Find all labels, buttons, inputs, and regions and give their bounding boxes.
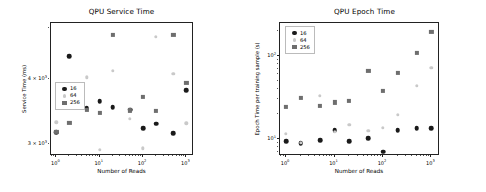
legend-item-16[interactable]: 16: [289, 30, 310, 37]
data-point-series-64: [347, 123, 350, 126]
x-tick-mark: [326, 155, 327, 156]
x-tick-mark: [51, 155, 52, 156]
legend-item-64[interactable]: 64: [59, 92, 80, 99]
y-tick-mark: [277, 142, 278, 143]
x-tick-mark: [377, 155, 378, 156]
y-tick-mark: [48, 27, 49, 28]
data-point-series-64: [284, 132, 287, 135]
legend-swatch-64: [293, 38, 296, 41]
x-tick-mark: [283, 155, 284, 156]
legend-epoch-time[interactable]: 1664256: [285, 26, 315, 54]
data-point-series-256: [171, 33, 175, 37]
y-tick-mark: [277, 68, 278, 69]
data-point-series-256: [366, 69, 370, 73]
legend-label: 256: [70, 99, 80, 106]
data-point-series-256: [67, 121, 71, 125]
figure-canvas: QPU Service Time Service Time (ms) Numbe…: [0, 0, 486, 192]
data-point-series-256: [54, 130, 58, 134]
x-tick-mark: [155, 155, 156, 156]
y-tick-label: 3 × 103: [28, 140, 47, 147]
data-point-series-256: [415, 50, 419, 54]
data-point-series-16: [110, 105, 115, 110]
legend-swatch-256: [62, 101, 66, 105]
y-tick-mark: [277, 73, 278, 74]
y-tick-mark: [48, 78, 49, 79]
data-point-series-64: [55, 121, 58, 124]
x-tick-mark: [308, 155, 309, 156]
data-point-series-16: [366, 136, 371, 141]
y-tick-label: 101: [267, 134, 276, 141]
data-point-series-256: [154, 109, 158, 113]
legend-item-256[interactable]: 256: [59, 99, 80, 106]
legend-marker-icon: [289, 38, 300, 41]
data-point-series-256: [347, 99, 351, 103]
legend-swatch-16: [292, 31, 297, 36]
legend-label: 16: [70, 85, 77, 92]
x-tick-mark: [163, 155, 164, 156]
x-tick-mark: [323, 155, 324, 156]
x-tick-mark: [382, 155, 383, 157]
data-point-series-16: [154, 122, 159, 127]
data-point-series-256: [381, 89, 385, 93]
chart-panel-epoch-time: QPU Epoch Time Epoch Time per training s…: [243, 0, 486, 192]
x-tick-mark: [132, 155, 133, 156]
legend-item-256[interactable]: 256: [289, 44, 310, 51]
x-tick-mark: [314, 155, 315, 156]
x-tick-mark: [95, 155, 96, 156]
x-tick-mark: [135, 155, 136, 156]
y-tick-mark: [277, 138, 279, 139]
legend-label: 64: [70, 92, 77, 99]
data-point-series-64: [111, 69, 114, 72]
data-point-series-64: [396, 113, 399, 116]
x-tick-label: 100: [281, 159, 290, 166]
x-tick-mark: [319, 155, 320, 156]
x-tick-mark: [140, 155, 141, 156]
data-point-series-256: [284, 105, 288, 109]
x-tick-mark: [99, 155, 100, 157]
data-point-series-64: [185, 121, 188, 124]
data-point-series-64: [333, 130, 336, 133]
data-point-series-256: [318, 104, 322, 108]
legend-service-time[interactable]: 1664256: [55, 82, 85, 110]
x-tick-mark: [179, 155, 180, 156]
data-point-series-16: [395, 128, 400, 133]
data-point-series-256: [85, 108, 89, 112]
legend-item-64[interactable]: 64: [289, 37, 310, 44]
data-point-series-16: [97, 99, 102, 104]
x-tick-mark: [380, 155, 381, 156]
data-point-series-64: [367, 129, 370, 132]
chart-title-epoch-time: QPU Epoch Time: [243, 7, 486, 16]
x-tick-mark: [430, 155, 431, 157]
x-tick-mark: [138, 155, 139, 156]
x-tick-mark: [416, 155, 417, 156]
x-tick-mark: [112, 155, 113, 156]
x-tick-mark: [420, 155, 421, 156]
x-tick-mark: [125, 155, 126, 156]
data-point-series-16: [171, 131, 176, 136]
x-tick-mark: [55, 155, 56, 157]
legend-swatch-64: [63, 94, 66, 97]
y-axis-label-service-time: Service Time (ms): [21, 65, 27, 113]
y-tick-mark: [277, 146, 278, 147]
x-tick-mark: [363, 155, 364, 156]
legend-marker-icon: [59, 94, 70, 97]
legend-marker-icon: [289, 45, 300, 49]
x-tick-mark: [411, 155, 412, 156]
x-tick-mark: [331, 155, 332, 156]
data-point-series-256: [184, 80, 188, 84]
x-tick-mark: [172, 155, 173, 156]
legend-item-16[interactable]: 16: [59, 85, 80, 92]
x-tick-mark: [348, 155, 349, 156]
x-tick-mark: [119, 155, 120, 156]
data-point-series-16: [141, 126, 146, 131]
legend-swatch-256: [292, 45, 296, 49]
x-tick-mark: [371, 155, 372, 156]
data-point-series-256: [299, 96, 303, 100]
legend-marker-icon: [59, 87, 70, 92]
data-point-series-16: [347, 139, 352, 144]
x-tick-mark: [374, 155, 375, 156]
x-tick-mark: [81, 155, 82, 156]
data-point-series-16: [429, 126, 434, 131]
x-tick-mark: [397, 155, 398, 156]
data-point-series-256: [128, 108, 132, 112]
